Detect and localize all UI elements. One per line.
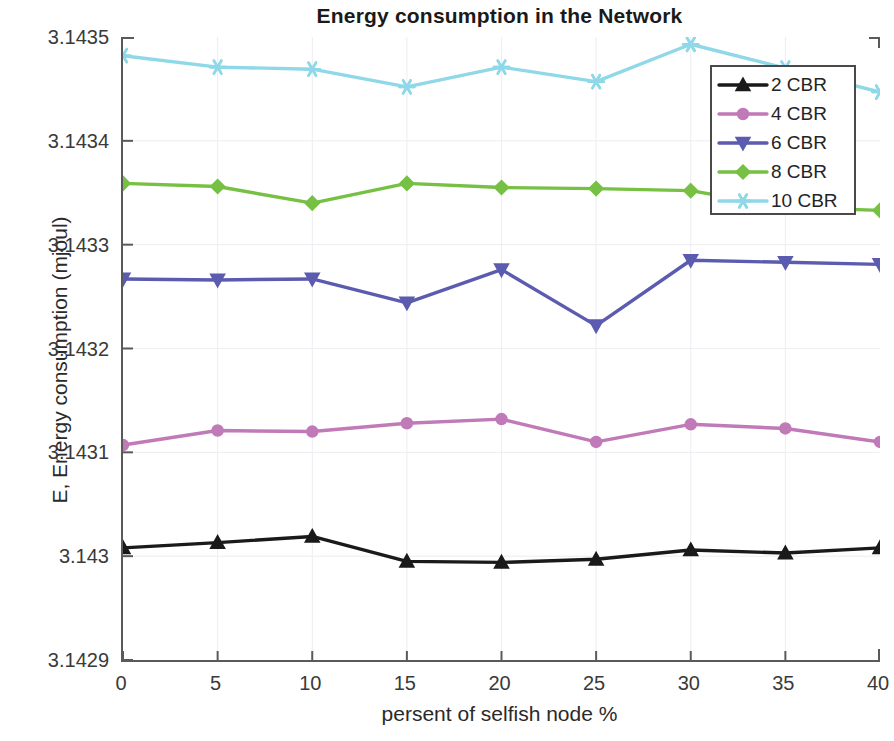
x-tick-label: 40: [838, 672, 894, 695]
legend-swatch-6-cbr: [717, 131, 769, 155]
legend-entry[interactable]: 4 CBR: [712, 99, 854, 128]
legend-label: 2 CBR: [771, 74, 827, 96]
legend-swatch-10-cbr: [717, 189, 769, 213]
legend: 2 CBR4 CBR6 CBR8 CBR10 CBR: [710, 65, 856, 215]
y-tick-label: 3.1434: [0, 129, 109, 152]
y-axis-label: E, Energy consumption (mjoul): [48, 110, 72, 610]
legend-entry[interactable]: 2 CBR: [712, 70, 854, 99]
legend-entry[interactable]: 10 CBR: [712, 186, 854, 215]
x-tick-label: 10: [270, 672, 350, 695]
y-tick-label: 3.1432: [0, 337, 109, 360]
legend-entry[interactable]: 8 CBR: [712, 157, 854, 186]
legend-swatch-4-cbr: [717, 102, 769, 126]
x-tick-label: 20: [460, 672, 540, 695]
y-tick-label: 3.1429: [0, 649, 109, 672]
x-tick-label: 25: [554, 672, 634, 695]
legend-label: 4 CBR: [771, 103, 827, 125]
legend-label: 8 CBR: [771, 161, 827, 183]
chart-title: Energy consumption in the Network: [121, 4, 878, 28]
legend-swatch-2-cbr: [717, 73, 769, 97]
legend-label: 6 CBR: [771, 132, 827, 154]
x-tick-label: 35: [743, 672, 823, 695]
x-tick-label: 15: [365, 672, 445, 695]
y-tick-label: 3.143: [0, 545, 109, 568]
x-axis-label: persent of selfish node %: [121, 702, 878, 726]
chart-figure: Energy consumption in the Network E, Ene…: [0, 0, 894, 741]
legend-entry[interactable]: 6 CBR: [712, 128, 854, 157]
x-tick-label: 5: [176, 672, 256, 695]
y-tick-label: 3.1433: [0, 233, 109, 256]
x-tick-label: 30: [649, 672, 729, 695]
y-tick-label: 3.1431: [0, 441, 109, 464]
legend-label: 10 CBR: [771, 190, 838, 212]
y-tick-label: 3.1435: [0, 26, 109, 49]
x-tick-label: 0: [81, 672, 161, 695]
legend-swatch-8-cbr: [717, 160, 769, 184]
